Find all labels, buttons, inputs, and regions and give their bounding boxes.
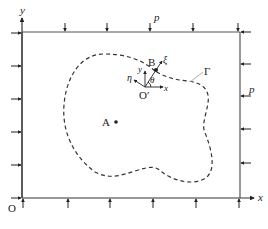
right-load-arrows — [241, 32, 251, 163]
plate-boundary — [22, 32, 240, 198]
global-axes: y x O — [8, 4, 263, 214]
local-x-label: x — [163, 83, 168, 93]
eta-label: η — [127, 72, 132, 83]
point-a-label: A — [102, 116, 110, 128]
gamma-label: Γ — [204, 65, 210, 77]
left-load-arrows — [11, 33, 21, 198]
top-load-arrows — [65, 23, 238, 31]
bottom-load-arrows — [23, 199, 239, 208]
origin-label: O — [8, 202, 16, 214]
local-origin-label: O′ — [139, 89, 149, 101]
theta-label: θ — [150, 75, 155, 85]
gamma-leader-line — [190, 72, 203, 82]
local-y-label: y — [137, 64, 142, 74]
xi-label: ξ — [163, 54, 168, 66]
plate-diagram: y x O p p Γ — [0, 0, 268, 229]
point-b-marker — [154, 68, 158, 72]
point-b-label: B — [148, 56, 155, 68]
y-axis-label: y — [19, 4, 25, 16]
x-axis-label: x — [257, 191, 263, 203]
pressure-top-label: p — [153, 11, 160, 23]
point-a-marker — [114, 120, 118, 124]
pressure-right-label: p — [248, 83, 255, 95]
